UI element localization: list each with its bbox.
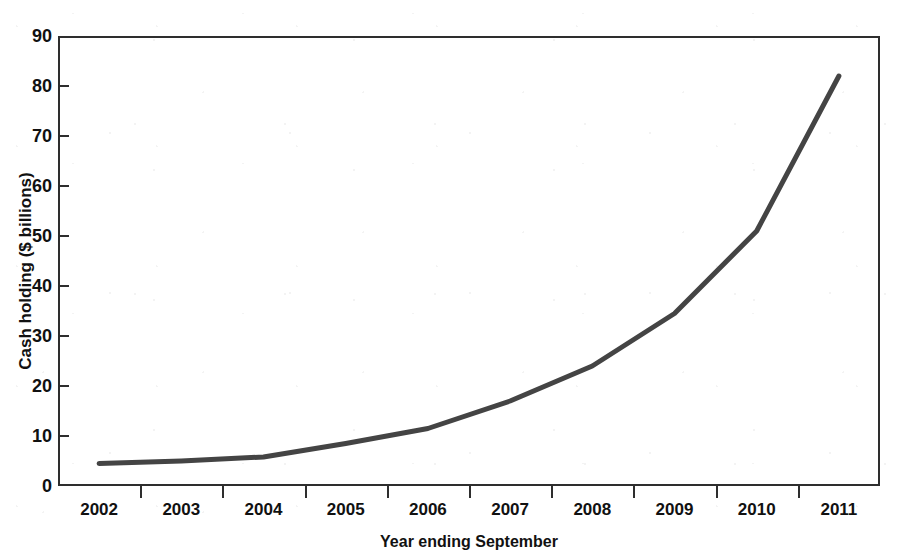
y-axis-tick-label: 90 (6, 27, 52, 45)
x-axis-tick-mark (140, 486, 142, 498)
chart-figure: 0102030405060708090 Cash holding ($ bill… (0, 0, 902, 557)
x-axis-tick-mark (716, 486, 718, 498)
x-axis-tick-label: 2008 (547, 500, 637, 520)
x-axis-tick-label: 2004 (219, 500, 309, 520)
x-axis-tick-label: 2005 (301, 500, 391, 520)
x-axis-tick-mark (798, 486, 800, 498)
x-axis-tick-mark (469, 486, 471, 498)
x-axis-tick-mark (551, 486, 553, 498)
clipped-caption (18, 0, 578, 10)
x-axis-tick-label: 2010 (712, 500, 802, 520)
y-axis-title: Cash holding ($ billions) (16, 71, 36, 471)
x-axis-title: Year ending September (58, 533, 880, 551)
x-axis-tick-label: 2009 (630, 500, 720, 520)
x-axis-tick-label: 2002 (54, 500, 144, 520)
x-axis-tick-label: 2007 (465, 500, 555, 520)
x-axis-tick-mark (222, 486, 224, 498)
x-axis-tick-label: 2003 (136, 500, 226, 520)
line-series-cash-holding (58, 36, 880, 486)
x-axis-tick-mark (387, 486, 389, 498)
x-axis-tick-mark (305, 486, 307, 498)
x-axis-tick-label: 2011 (794, 500, 884, 520)
x-axis-tick-label: 2006 (383, 500, 473, 520)
y-axis-tick-label: 0 (6, 477, 52, 495)
x-axis-tick-mark (633, 486, 635, 498)
